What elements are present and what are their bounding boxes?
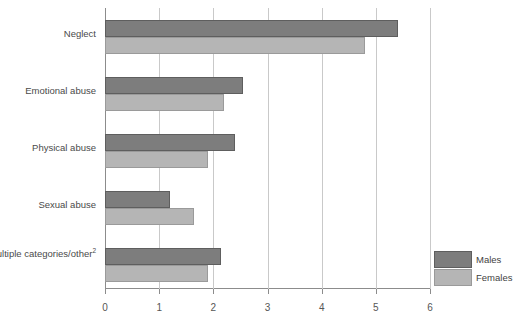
category-label-2: Physical abuse xyxy=(0,142,96,153)
plot-area: 0123456 Males Females xyxy=(105,8,430,289)
category-label-0: Neglect xyxy=(0,28,96,39)
x-tick-2 xyxy=(213,289,214,294)
category-label-3: Sexual abuse xyxy=(0,199,96,210)
bar-females-1 xyxy=(105,94,224,111)
x-tick-label-0: 0 xyxy=(85,302,125,313)
category-label-text: Sexual abuse xyxy=(38,199,96,210)
bar-males-0 xyxy=(105,20,398,37)
bar-males-4 xyxy=(105,248,221,265)
bar-males-2 xyxy=(105,134,235,151)
bar-males-3 xyxy=(105,191,170,208)
gridline-5 xyxy=(376,8,377,289)
bar-females-3 xyxy=(105,208,194,225)
bar-females-4 xyxy=(105,265,208,282)
x-tick-label-5: 5 xyxy=(356,302,396,313)
category-label-text: Neglect xyxy=(64,28,96,39)
x-tick-5 xyxy=(376,289,377,294)
x-tick-label-3: 3 xyxy=(248,302,288,313)
category-label-4: Multiple categories/other2 xyxy=(0,247,96,259)
x-tick-6 xyxy=(430,289,431,294)
legend-label-males: Males xyxy=(476,254,501,265)
legend-label-females: Females xyxy=(476,272,512,283)
legend-swatch-females-icon xyxy=(434,269,472,286)
gridline-6 xyxy=(430,8,431,289)
bar-females-0 xyxy=(105,37,365,54)
x-tick-0 xyxy=(105,289,106,294)
category-footnote-marker: 2 xyxy=(92,247,96,254)
x-tick-3 xyxy=(268,289,269,294)
x-tick-label-2: 2 xyxy=(193,302,233,313)
x-tick-1 xyxy=(159,289,160,294)
category-label-1: Emotional abuse xyxy=(0,85,96,96)
x-tick-label-6: 6 xyxy=(410,302,450,313)
bar-females-2 xyxy=(105,151,208,168)
x-tick-4 xyxy=(322,289,323,294)
category-label-text: Emotional abuse xyxy=(25,85,96,96)
category-label-text: Physical abuse xyxy=(32,142,96,153)
x-tick-label-1: 1 xyxy=(139,302,179,313)
category-label-text: Multiple categories/other xyxy=(0,248,92,259)
bar-males-1 xyxy=(105,77,243,94)
x-tick-label-4: 4 xyxy=(302,302,342,313)
chart-legend: Males Females xyxy=(434,251,517,286)
legend-swatch-males-icon xyxy=(434,251,472,268)
